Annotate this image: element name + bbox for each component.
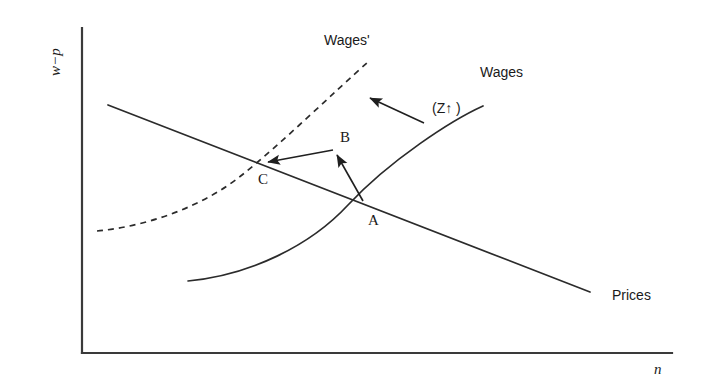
- prices-curve-label: Prices: [612, 288, 651, 302]
- arrow-a-to-b: [337, 155, 363, 201]
- y-axis-label: w−p: [48, 48, 63, 76]
- axes-group: [82, 28, 672, 353]
- shift-cause-annotation: (Z↑ ): [432, 101, 461, 115]
- arrow-b-to-c: [268, 150, 333, 162]
- wage-price-diagram: w−p n Wages' Wages Prices (Z↑ ) A B C: [0, 0, 704, 392]
- point-label-c: C: [258, 172, 268, 187]
- wages-prime-curve: [97, 62, 368, 231]
- arrow-shift-indicator: [370, 98, 424, 123]
- wages-prime-curve-label: Wages': [324, 33, 370, 47]
- diagram-canvas: [0, 0, 704, 392]
- point-label-b: B: [340, 130, 350, 145]
- point-label-a: A: [368, 213, 379, 228]
- x-axis-label: n: [654, 362, 662, 377]
- wages-curve-label: Wages: [480, 65, 523, 79]
